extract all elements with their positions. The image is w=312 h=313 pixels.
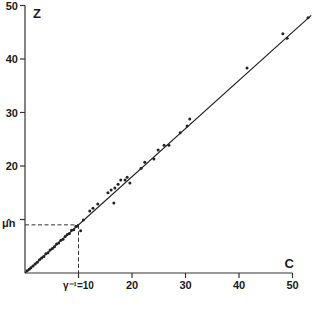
- scatter-chart: 2030405020304050 Z C γ⁻¹=10 μ̂n: [0, 0, 312, 313]
- data-point: [64, 235, 67, 238]
- data-point: [119, 178, 122, 181]
- x-axis-label: C: [285, 256, 295, 271]
- data-point: [88, 209, 91, 212]
- data-point: [76, 224, 79, 227]
- y-tick-label: 50: [6, 0, 18, 12]
- data-point: [82, 219, 85, 222]
- y-tick-label: 30: [6, 107, 18, 119]
- data-point: [91, 207, 94, 210]
- data-point: [152, 158, 155, 161]
- data-point: [126, 176, 129, 179]
- data-point: [179, 131, 182, 134]
- data-point: [246, 67, 249, 70]
- data-point: [140, 167, 143, 170]
- data-point: [110, 189, 113, 192]
- data-point: [128, 182, 131, 185]
- data-point: [167, 144, 170, 147]
- axes: [25, 6, 293, 274]
- y-axis-label: Z: [33, 6, 41, 21]
- data-point: [143, 161, 146, 164]
- data-point: [186, 124, 189, 127]
- data-point: [124, 178, 127, 181]
- data-point: [61, 238, 64, 241]
- x-tick-label: 50: [286, 279, 298, 291]
- mu-hat-n-label: μ̂n: [2, 217, 16, 229]
- data-point: [163, 144, 166, 147]
- data-point: [72, 228, 75, 231]
- data-point: [79, 229, 82, 232]
- data-point: [36, 261, 39, 264]
- data-point: [286, 37, 289, 40]
- data-point: [57, 242, 60, 245]
- x-tick-label: 30: [179, 279, 191, 291]
- data-point: [32, 265, 35, 268]
- x-tick-label: 40: [233, 279, 245, 291]
- data-point: [53, 245, 56, 248]
- data-point: [42, 255, 45, 258]
- data-point: [96, 202, 99, 205]
- data-point: [106, 191, 109, 194]
- data-point: [157, 148, 160, 151]
- data-point: [307, 16, 310, 19]
- x-tick-label: 20: [126, 279, 138, 291]
- y-tick-label: 20: [6, 160, 18, 172]
- data-point: [117, 183, 120, 186]
- data-point: [68, 232, 71, 235]
- gamma-inverse-label: γ⁻¹=10: [63, 280, 94, 291]
- y-tick-label: 40: [6, 53, 18, 65]
- data-point: [47, 251, 50, 254]
- data-point: [281, 32, 284, 35]
- data-point: [113, 186, 116, 189]
- data-point: [112, 201, 115, 204]
- data-point: [188, 117, 191, 120]
